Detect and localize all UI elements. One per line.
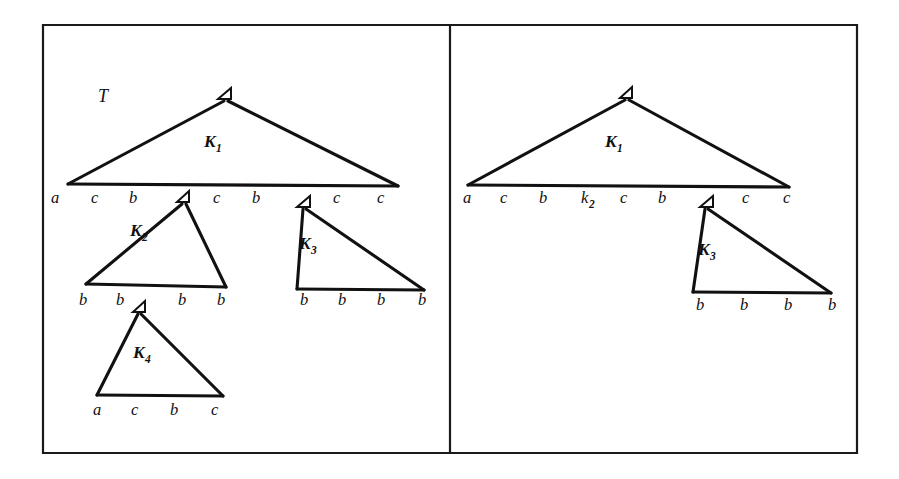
right-K3-label-subscript: 3 <box>709 250 716 262</box>
right-row1-sym-7: c <box>783 188 791 207</box>
left-row2-left-sym-3: b <box>217 290 225 309</box>
left-K2-apex-node-icon <box>177 191 189 202</box>
right-triangle-K3: K 3 <box>693 196 831 293</box>
left-row2-right-sym-0: b <box>300 290 308 309</box>
right-row1-nonterminal-k2: k 2 <box>581 188 595 210</box>
left-row3-sym-2: b <box>170 400 178 419</box>
right-row1-sym-1: c <box>500 188 508 207</box>
figure-frame <box>43 25 857 453</box>
right-row1-sym-3-subscript: 2 <box>588 198 595 210</box>
left-triangle-K1: K 1 <box>68 88 398 186</box>
right-row1-sym-2: b <box>539 188 547 207</box>
left-K3-label: K <box>298 233 312 253</box>
left-frontier-row-2: b b b b b b b b <box>79 290 426 309</box>
left-K2-label: K <box>129 220 143 240</box>
left-K4-left-edge <box>97 314 138 395</box>
left-row1-sym-1: c <box>91 188 99 207</box>
left-row3-sym-3: c <box>211 400 219 419</box>
left-row1-sym-6: c <box>377 188 385 207</box>
left-K1-right-edge <box>228 101 398 186</box>
left-row1-sym-3: c <box>213 188 221 207</box>
left-row2-right-sym-3: b <box>418 290 426 309</box>
left-panel: T K 1 a c b c b c c <box>51 86 426 419</box>
right-row2-sym-3: b <box>828 295 836 314</box>
right-row1-sym-4: c <box>620 188 628 207</box>
right-row1-sym-3: k <box>581 188 589 207</box>
left-frontier-row-1: a c b c b c c <box>51 188 385 207</box>
left-row3-sym-0: a <box>93 400 101 419</box>
left-row1-sym-5: c <box>333 188 341 207</box>
right-K1-label-subscript: 1 <box>617 142 623 154</box>
left-triangle-K2: K 2 <box>86 191 226 287</box>
right-row1-sym-6: c <box>742 188 750 207</box>
left-row2-left-sym-1: b <box>116 290 124 309</box>
right-triangle-K1: K 1 <box>468 87 789 187</box>
derivation-tree-figure: T K 1 a c b c b c c <box>0 0 899 479</box>
left-K4-label-subscript: 4 <box>144 353 151 365</box>
left-K3-right-edge <box>306 209 424 290</box>
left-row2-right-sym-2: b <box>377 290 385 309</box>
right-K1-base-edge <box>468 185 789 187</box>
left-row2-right-sym-1: b <box>338 290 346 309</box>
left-K2-base-edge <box>86 284 226 287</box>
left-K3-label-subscript: 3 <box>310 244 317 256</box>
right-frontier-row-2: b b b b <box>696 295 836 314</box>
left-K2-left-edge <box>86 204 182 284</box>
left-row2-left-sym-0: b <box>79 290 87 309</box>
right-frontier-row-1: a c b k 2 c b c c <box>463 188 791 210</box>
left-row1-sym-0: a <box>51 188 59 207</box>
left-K1-label: K <box>203 131 217 151</box>
left-triangle-K4: K 4 <box>97 301 223 396</box>
right-K3-apex-node-icon <box>700 196 713 207</box>
right-K1-right-edge <box>629 100 789 187</box>
left-frontier-row-3: a c b c <box>93 400 219 419</box>
left-K1-apex-node-icon <box>218 88 231 99</box>
right-K3-label: K <box>697 239 711 259</box>
right-row2-sym-2: b <box>784 295 792 314</box>
left-K4-right-edge <box>141 314 223 396</box>
left-row3-sym-1: c <box>131 400 139 419</box>
figure-container: T K 1 a c b c b c c <box>0 0 899 479</box>
left-row2-left-sym-2: b <box>178 290 186 309</box>
right-row2-sym-0: b <box>696 295 704 314</box>
right-K1-label: K <box>604 131 618 151</box>
right-K3-base-edge <box>693 292 831 293</box>
right-row2-sym-1: b <box>740 295 748 314</box>
left-K1-left-edge <box>68 101 224 184</box>
left-K2-right-edge <box>186 204 226 287</box>
left-K3-base-edge <box>297 289 424 290</box>
left-K4-base-edge <box>97 395 223 396</box>
left-K4-label: K <box>132 342 146 362</box>
left-K2-label-subscript: 2 <box>141 231 148 243</box>
left-K1-base-edge <box>68 184 398 186</box>
left-K4-apex-node-icon <box>133 301 145 312</box>
left-K1-label-subscript: 1 <box>216 142 222 154</box>
right-K3-right-edge <box>708 209 831 293</box>
right-row1-sym-0: a <box>463 188 471 207</box>
right-panel: K 1 a c b k 2 c b c c <box>463 87 836 314</box>
tree-label-T: T <box>98 86 110 106</box>
left-K3-apex-node-icon <box>297 196 310 207</box>
left-row1-sym-4: b <box>252 188 260 207</box>
right-K1-left-edge <box>468 100 625 185</box>
left-row1-sym-2: b <box>129 188 137 207</box>
right-row1-sym-5: b <box>658 188 666 207</box>
right-K1-apex-node-icon <box>620 87 632 98</box>
left-triangle-K3: K 3 <box>297 196 424 290</box>
